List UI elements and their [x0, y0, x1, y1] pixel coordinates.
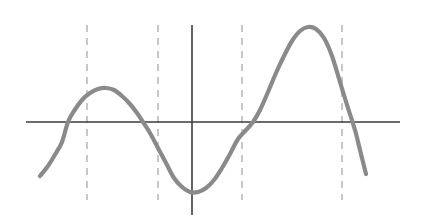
- plot-background: [0, 0, 421, 221]
- graph-canvas: [0, 0, 421, 221]
- graph-figure: [0, 0, 421, 221]
